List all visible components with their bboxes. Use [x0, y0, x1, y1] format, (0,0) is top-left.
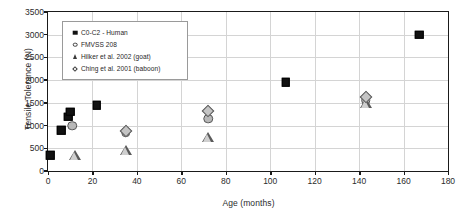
y-tick-label: 1500	[25, 98, 44, 108]
legend-entry-c0c2-human: C0-C2 - Human	[69, 27, 182, 38]
x-tick-label: 40	[132, 176, 141, 186]
diamond-marker-icon	[69, 63, 81, 74]
x-axis-title: Age (months)	[40, 198, 457, 208]
legend-label: C0-C2 - Human	[81, 29, 128, 36]
data-point-circle	[68, 121, 78, 131]
x-tick-mark	[404, 171, 405, 175]
x-tick-label: 160	[396, 176, 410, 186]
y-tick-mark	[44, 11, 48, 12]
scatter-chart-figure: Tensile Tolerance (N) 020406080100120140…	[0, 0, 457, 217]
y-tick-label: 3500	[25, 7, 44, 17]
plot-area: 0204060801001201401601800500100015002000…	[47, 11, 449, 172]
legend-entry-fmvss-208: FMVSS 208	[69, 39, 182, 50]
x-tick-mark	[92, 171, 93, 175]
legend-label: FMVSS 208	[81, 41, 117, 48]
x-tick-mark	[270, 171, 271, 175]
square-marker-icon	[69, 27, 81, 38]
circle-marker-icon	[69, 39, 81, 50]
data-point-square	[66, 108, 75, 117]
x-tick-mark	[359, 171, 360, 175]
x-tick-mark	[226, 171, 227, 175]
gridline-horizontal	[48, 80, 448, 81]
x-tick-label: 80	[221, 176, 230, 186]
legend-entry-ching-baboon: Ching et al. 2001 (baboon)	[69, 63, 182, 74]
y-tick-mark	[44, 34, 48, 35]
y-tick-label: 2000	[25, 75, 44, 85]
y-tick-label: 500	[30, 143, 44, 153]
x-tick-label: 100	[263, 176, 277, 186]
y-tick-label: 2500	[25, 52, 44, 62]
x-tick-mark	[448, 171, 449, 175]
y-tick-mark	[44, 170, 48, 171]
y-tick-mark	[44, 57, 48, 58]
y-tick-label: 0	[39, 166, 44, 176]
chart-legend: C0-C2 - Human FMVSS 208 Hilker et al. 20…	[62, 21, 188, 80]
data-point-square	[57, 126, 66, 135]
x-tick-mark	[137, 171, 138, 175]
gridline-horizontal	[48, 126, 448, 127]
y-tick-mark	[44, 125, 48, 126]
gridline-vertical	[226, 12, 227, 171]
gridline-vertical	[270, 12, 271, 171]
x-tick-mark	[181, 171, 182, 175]
data-point-square	[415, 30, 424, 39]
x-tick-label: 120	[308, 176, 322, 186]
legend-label: Hilker et al. 2002 (goat)	[81, 53, 151, 60]
y-tick-mark	[44, 148, 48, 149]
data-point-square	[93, 101, 102, 110]
triangle-marker-icon	[69, 51, 81, 62]
gridline-vertical	[315, 12, 316, 171]
x-tick-label: 180	[441, 176, 455, 186]
data-point-square	[46, 151, 55, 160]
data-point-square	[282, 78, 291, 87]
x-tick-label: 20	[88, 176, 97, 186]
y-tick-label: 1000	[25, 121, 44, 131]
legend-label: Ching et al. 2001 (baboon)	[81, 65, 160, 72]
x-tick-label: 60	[177, 176, 186, 186]
x-tick-label: 0	[46, 176, 51, 186]
x-tick-label: 140	[352, 176, 366, 186]
gridline-horizontal	[48, 103, 448, 104]
x-tick-mark	[315, 171, 316, 175]
gridline-horizontal	[48, 148, 448, 149]
gridline-vertical	[404, 12, 405, 171]
y-tick-mark	[44, 102, 48, 103]
legend-entry-hilker-goat: Hilker et al. 2002 (goat)	[69, 51, 182, 62]
y-tick-label: 3000	[25, 30, 44, 40]
x-tick-mark	[48, 171, 49, 175]
gridline-vertical	[359, 12, 360, 171]
y-tick-mark	[44, 79, 48, 80]
